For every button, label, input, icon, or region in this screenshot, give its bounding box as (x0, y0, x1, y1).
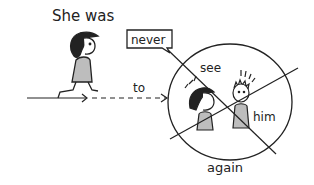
sketch: She was to never (0, 0, 314, 185)
circle-scene (168, 44, 292, 160)
boy-in-circle-figure (233, 70, 255, 128)
label-him: him (253, 110, 276, 124)
running-girl-figure (58, 32, 98, 98)
illustration-canvas: She was to never (0, 0, 314, 185)
girl-in-circle-figure (185, 76, 214, 130)
caption-she-was: She was (52, 7, 114, 25)
label-never: never (131, 33, 165, 47)
never-speech-box: never (127, 30, 172, 53)
label-again: again (207, 160, 243, 175)
label-to: to (133, 81, 145, 95)
label-see: see (200, 61, 221, 75)
path-arrow (27, 94, 167, 102)
